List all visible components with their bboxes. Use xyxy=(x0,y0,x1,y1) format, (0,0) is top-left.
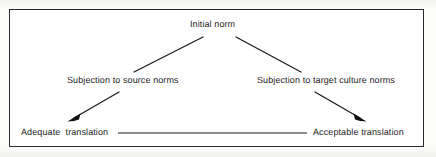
node-subjection-to-target-culture-norms: Subjection to target culture norms xyxy=(257,75,395,86)
node-adequate-translation: Adequate translation xyxy=(21,127,108,138)
diagram-figure: Initial norm Subjection to source norms … xyxy=(0,0,436,157)
node-subjection-to-source-norms: Subjection to source norms xyxy=(67,75,179,86)
node-initial-norm: Initial norm xyxy=(190,19,235,30)
node-acceptable-translation: Acceptable translation xyxy=(313,127,404,138)
